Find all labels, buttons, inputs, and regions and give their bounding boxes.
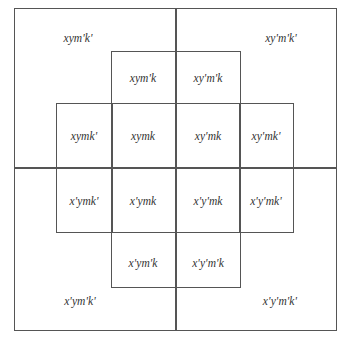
region-label-bottom-left: x'ym'k' xyxy=(64,295,96,307)
region-label-bottom-right: x'y'm'k' xyxy=(263,295,297,307)
region-label: xy'mk' xyxy=(251,130,280,142)
region-label: x'y'm'k xyxy=(192,257,224,269)
region-label: x'ymk' xyxy=(69,195,98,207)
middle-box xyxy=(56,103,294,233)
region-label: xymk' xyxy=(71,130,98,142)
region-label-top-left: xym'k' xyxy=(63,32,92,44)
region-label: xym'k xyxy=(130,72,157,84)
region-label: x'y'mk xyxy=(193,195,222,207)
region-label: x'y'mk' xyxy=(250,195,282,207)
region-label-top-right: xy'm'k' xyxy=(265,32,297,44)
region-label: xy'm'k xyxy=(193,72,222,84)
region-label: xymk xyxy=(131,130,155,142)
col-divider-right xyxy=(239,103,241,233)
col-divider-left xyxy=(111,103,113,233)
region-label: x'ymk xyxy=(130,195,157,207)
region-label: x'ym'k xyxy=(128,257,157,269)
region-label: xy'mk xyxy=(195,130,222,142)
